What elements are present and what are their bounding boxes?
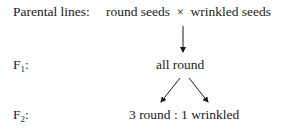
arrow-down-right-icon [189,78,208,102]
arrows [0,0,289,132]
arrow-down-left-icon [161,78,180,102]
